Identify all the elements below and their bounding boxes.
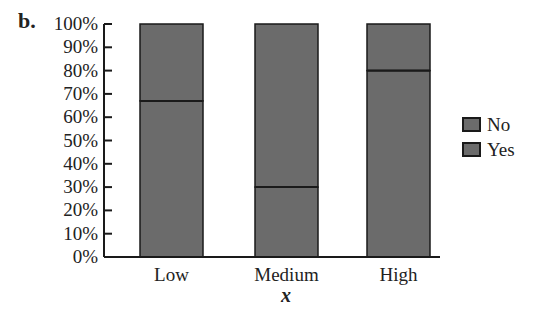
legend-swatch bbox=[463, 118, 480, 131]
legend-label: Yes bbox=[487, 139, 515, 160]
stacked-bar-chart: 0%10%20%30%40%50%60%70%80%90%100% LowMed… bbox=[0, 0, 535, 319]
bar-segment-yes bbox=[140, 101, 203, 257]
y-tick-label: 0% bbox=[73, 246, 99, 267]
bar-high bbox=[367, 24, 430, 257]
legend-label: No bbox=[487, 114, 510, 135]
bar-segment-no bbox=[367, 24, 430, 71]
legend-item-no: No bbox=[463, 114, 510, 135]
legend-item-yes: Yes bbox=[463, 139, 515, 160]
y-tick-label: 80% bbox=[63, 60, 98, 81]
bar-segment-yes bbox=[255, 187, 318, 257]
x-tick-label: Medium bbox=[254, 264, 319, 285]
y-tick-label: 50% bbox=[63, 130, 98, 151]
x-tick-label: High bbox=[380, 264, 419, 285]
bar-segment-no bbox=[140, 24, 203, 101]
x-axis: LowMediumHighx bbox=[104, 257, 440, 306]
y-tick-label: 10% bbox=[63, 223, 98, 244]
y-axis: 0%10%20%30%40%50%60%70%80%90%100% bbox=[54, 13, 112, 267]
y-tick-label: 30% bbox=[63, 176, 98, 197]
y-tick-label: 90% bbox=[63, 36, 98, 57]
legend-swatch bbox=[463, 143, 480, 156]
y-tick-label: 60% bbox=[63, 106, 98, 127]
bar-low bbox=[140, 24, 203, 257]
y-tick-label: 20% bbox=[63, 199, 98, 220]
y-tick-label: 40% bbox=[63, 153, 98, 174]
bar-segment-yes bbox=[367, 71, 430, 257]
legend: NoYes bbox=[463, 114, 515, 160]
y-tick-label: 100% bbox=[54, 13, 99, 34]
y-tick-label: 70% bbox=[63, 83, 98, 104]
bar-segment-no bbox=[255, 24, 318, 187]
x-axis-title: x bbox=[280, 284, 291, 306]
bars bbox=[140, 24, 430, 257]
x-tick-label: Low bbox=[154, 264, 189, 285]
bar-medium bbox=[255, 24, 318, 257]
